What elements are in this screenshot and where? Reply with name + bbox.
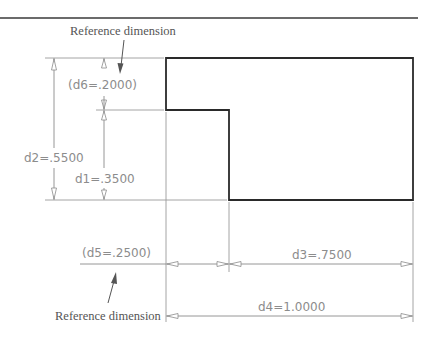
d1-label: d1=.3500 bbox=[75, 172, 135, 186]
dimensioned-part-drawing: d2=.5500 (d6=.2000) d1=.3500 (d5=.2500) … bbox=[0, 0, 437, 342]
dimension-d3: d3=.7500 bbox=[229, 248, 413, 267]
part-outline bbox=[166, 58, 413, 200]
leader-arrow-icon bbox=[111, 272, 117, 284]
d5-label: (d5=.2500) bbox=[82, 246, 151, 260]
leader-arrow-icon bbox=[118, 63, 124, 74]
dimension-d4: d4=1.0000 bbox=[166, 300, 413, 319]
dimension-d6: (d6=.2000) bbox=[68, 58, 137, 110]
reference-note-top-text: Reference dimension bbox=[70, 24, 177, 38]
d6-label: (d6=.2000) bbox=[68, 78, 137, 92]
d3-label: d3=.7500 bbox=[292, 248, 352, 262]
d2-label: d2=.5500 bbox=[24, 151, 84, 165]
d4-label: d4=1.0000 bbox=[258, 300, 325, 314]
dimension-d5: (d5=.2500) bbox=[80, 246, 229, 267]
reference-note-top: Reference dimension bbox=[70, 24, 177, 74]
dimension-d1: d1=.3500 bbox=[75, 110, 135, 200]
reference-note-bottom-text: Reference dimension bbox=[55, 309, 162, 323]
reference-note-bottom: Reference dimension bbox=[55, 272, 162, 323]
